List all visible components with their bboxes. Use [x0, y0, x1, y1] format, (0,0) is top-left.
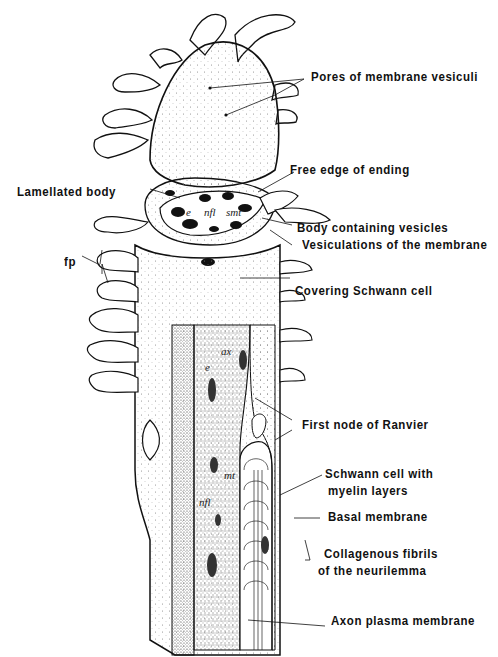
- label-body-containing-vesicles: Body containing vesicles: [297, 221, 448, 236]
- label-axon-plasma-membrane: Axon plasma membrane: [331, 614, 475, 629]
- abbr-nfl-top: nfl: [204, 206, 216, 218]
- label-fp: fp: [64, 255, 76, 270]
- abbr-ax: ax: [221, 345, 231, 357]
- label-free-edge-of-ending: Free edge of ending: [290, 163, 410, 178]
- abbr-nfl-bottom: nfl: [199, 496, 211, 508]
- label-collagenous-fibrils: Collagenous fibrils: [324, 547, 438, 562]
- label-basal-membrane: Basal membrane: [328, 510, 428, 525]
- label-vesiculations-of-the-membrane: Vesiculations of the membrane: [302, 238, 487, 253]
- schwann-cut-face: [172, 325, 194, 655]
- abbr-mt: mt: [224, 469, 235, 481]
- abbr-e-top: e: [186, 206, 191, 218]
- abbr-e-mid: e: [205, 361, 210, 373]
- label-of-the-neurilemma: of the neurilemma: [318, 564, 426, 579]
- abbr-smt: smt: [226, 206, 241, 218]
- label-lamellated-body: Lamellated body: [17, 185, 116, 200]
- label-schwann-cell-with: Schwann cell with: [325, 467, 433, 482]
- label-covering-schwann-cell: Covering Schwann cell: [295, 284, 432, 299]
- label-myelin-layers: myelin layers: [328, 484, 408, 499]
- label-first-node-of-ranvier: First node of Ranvier: [302, 418, 429, 433]
- label-pores-of-membrane-vesiculi: Pores of membrane vesiculi: [311, 70, 478, 85]
